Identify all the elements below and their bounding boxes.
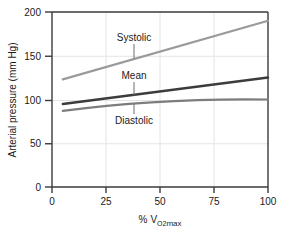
y-tick-label-200: 200: [24, 7, 41, 18]
y-tick-label-0: 0: [35, 182, 41, 193]
x-axis-tick-labels: 0 25 50 75 100: [49, 196, 277, 207]
x-tick-label-0: 0: [49, 196, 55, 207]
x-tick-label-75: 75: [208, 196, 220, 207]
svg-text:%VO2max: %VO2max: [138, 214, 181, 228]
series-label-diastolic: Diastolic: [115, 115, 153, 126]
y-axis-title: Arterial pressure (mm Hg): [7, 42, 18, 157]
series-label-mean: Mean: [121, 70, 146, 81]
x-axis-title-max: max: [166, 219, 181, 228]
chart-container: 0 50 100 150 200 0 25 50 75 100 Arterial…: [0, 0, 285, 230]
y-axis-ticks: [45, 12, 52, 187]
x-axis-ticks: [52, 187, 268, 193]
x-axis-title: %VO2max: [138, 214, 181, 228]
y-tick-label-150: 150: [24, 51, 41, 62]
y-axis-tick-labels: 0 50 100 150 200: [24, 7, 41, 193]
y-tick-label-100: 100: [24, 95, 41, 106]
x-axis-title-percent: %: [138, 214, 147, 225]
arterial-pressure-line-chart: 0 50 100 150 200 0 25 50 75 100 Arterial…: [0, 0, 285, 230]
series-label-systolic: Systolic: [117, 32, 151, 43]
x-tick-label-100: 100: [260, 196, 277, 207]
y-tick-label-50: 50: [30, 138, 42, 149]
x-tick-label-25: 25: [100, 196, 112, 207]
x-tick-label-50: 50: [154, 196, 166, 207]
